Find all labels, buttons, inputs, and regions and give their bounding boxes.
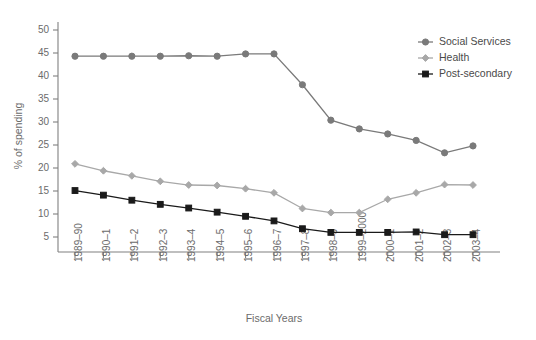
data-point: [129, 197, 135, 203]
line-chart: 5101520253035404550 1989–901990–11991–21…: [0, 0, 536, 340]
data-point: [356, 126, 362, 132]
y-tick-label: 30: [38, 116, 50, 127]
data-point: [101, 192, 107, 198]
data-point: [185, 182, 192, 189]
legend-label: Social Services: [439, 35, 511, 47]
x-tick-label: 1992–3: [158, 228, 169, 262]
legend-marker: [422, 39, 428, 45]
series-social-services: [72, 51, 476, 156]
y-tick-label: 25: [38, 139, 50, 150]
data-point: [157, 201, 163, 207]
data-point: [214, 53, 220, 59]
y-axis-title: % of spending: [12, 103, 24, 170]
data-point: [186, 53, 192, 59]
y-tick-label: 10: [38, 208, 50, 219]
y-tick-label: 35: [38, 93, 50, 104]
data-point: [442, 232, 448, 238]
series-layer: [72, 51, 477, 238]
data-point: [356, 230, 362, 236]
data-point: [271, 218, 277, 224]
legend-item-health[interactable]: Health: [418, 51, 470, 63]
data-point: [328, 230, 334, 236]
data-point: [441, 150, 447, 156]
y-tick-label: 15: [38, 185, 50, 196]
y-tick-label: 20: [38, 162, 50, 173]
chart-legend: Social ServicesHealthPost-secondary: [418, 35, 513, 79]
data-point: [72, 188, 78, 194]
x-tick-label: 1994–5: [215, 228, 226, 262]
y-tick-label: 40: [38, 70, 50, 81]
data-point: [186, 205, 192, 211]
data-point: [470, 143, 476, 149]
data-point: [384, 196, 391, 203]
data-point: [470, 232, 476, 238]
data-point: [413, 229, 419, 235]
data-point: [214, 209, 220, 215]
x-tick-label: 1996–7: [272, 228, 283, 262]
x-axis: 1989–901990–11991–21992–31993–41994–5199…: [58, 212, 500, 262]
data-point: [271, 51, 277, 57]
data-point: [328, 117, 334, 123]
data-point: [441, 181, 448, 188]
data-point: [128, 172, 135, 179]
data-point: [242, 51, 248, 57]
legend-marker: [423, 71, 429, 77]
data-point: [271, 189, 278, 196]
data-point: [413, 189, 420, 196]
data-point: [72, 53, 78, 59]
series-line: [75, 54, 473, 153]
series-health: [72, 160, 477, 216]
legend-label: Post-secondary: [439, 67, 513, 79]
data-point: [157, 178, 164, 185]
legend-item-post-secondary[interactable]: Post-secondary: [418, 67, 513, 79]
data-point: [72, 160, 79, 167]
x-axis-title: Fiscal Years: [246, 312, 303, 324]
x-tick-label: 1989–90: [73, 223, 84, 262]
y-tick-label: 50: [38, 24, 50, 35]
data-point: [413, 137, 419, 143]
x-tick-label: 1997–8: [300, 228, 311, 262]
data-point: [385, 131, 391, 137]
data-point: [470, 182, 477, 189]
data-point: [214, 182, 221, 189]
data-point: [299, 205, 306, 212]
data-point: [129, 53, 135, 59]
data-point: [300, 226, 306, 232]
y-tick-label: 5: [43, 231, 49, 242]
data-point: [385, 230, 391, 236]
data-point: [100, 53, 106, 59]
y-axis: 5101520253035404550: [38, 22, 58, 252]
chart-canvas: 5101520253035404550 1989–901990–11991–21…: [0, 0, 536, 340]
y-tick-label: 45: [38, 47, 50, 58]
x-tick-label: 1991–2: [129, 228, 140, 262]
legend-label: Health: [439, 51, 470, 63]
x-tick-label: 1999–2000: [357, 212, 368, 262]
data-point: [157, 53, 163, 59]
data-point: [299, 82, 305, 88]
legend-marker: [422, 55, 429, 62]
series-line: [75, 164, 473, 213]
x-tick-label: 1993–4: [186, 228, 197, 262]
legend-item-social-services[interactable]: Social Services: [418, 35, 511, 47]
data-point: [243, 213, 249, 219]
data-point: [100, 167, 107, 174]
x-tick-label: 1990–1: [101, 228, 112, 262]
x-tick-label: 1995–6: [243, 228, 254, 262]
data-point: [327, 209, 334, 216]
data-point: [242, 185, 249, 192]
